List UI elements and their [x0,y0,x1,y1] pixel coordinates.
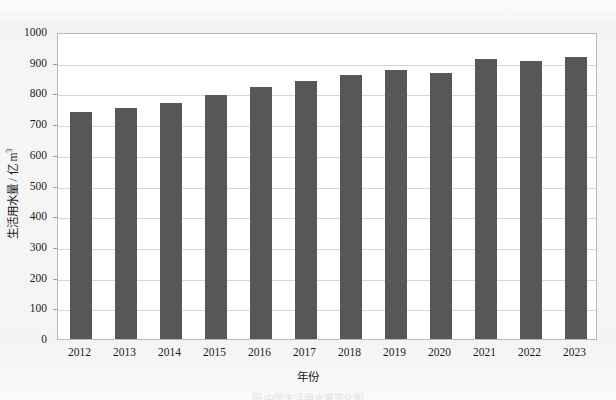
x-tick-label: 2015 [193,346,237,358]
gridline [58,126,596,127]
bar [115,108,137,339]
bar [250,87,272,339]
bar [205,95,227,339]
x-tick-label: 2018 [328,346,372,358]
gridline [58,188,596,189]
x-tick-label: 2016 [238,346,282,358]
y-tick-label: 900 [30,58,47,70]
gridline [58,249,596,250]
bar [160,103,182,339]
gridline [58,310,596,311]
chart-figure: 01002003004005006007008009001000 生活用水量 /… [0,0,616,400]
y-tick-label: 600 [30,150,47,162]
gridline [58,65,596,66]
x-tick-label: 2023 [553,346,597,358]
x-tick-label: 2017 [283,346,327,358]
bar [70,112,92,339]
x-tick-label: 2020 [418,346,462,358]
plot-area [57,33,597,340]
bar [385,70,407,339]
gridline [58,218,596,219]
y-axis-title: 生活用水量 / 亿 m3 [4,99,20,289]
y-tick-label: 100 [30,304,47,316]
figure-caption: 图 中国生活用水量变化图 [0,392,616,400]
y-tick-label: 0 [41,334,47,346]
y-axis-title-exponent: 3 [5,149,14,153]
y-tick-label: 400 [30,211,47,223]
bar [295,81,317,339]
x-tick-label: 2014 [148,346,192,358]
gridline [58,157,596,158]
x-axis-title: 年份 [0,368,616,384]
y-tick-label: 200 [30,273,47,285]
gridline [58,280,596,281]
bar [475,59,497,339]
x-tick-label: 2013 [103,346,147,358]
bar [430,73,452,339]
y-tick-label: 800 [30,89,47,101]
bar [520,61,542,339]
y-tick-label: 300 [30,242,47,254]
y-tick-label: 500 [30,181,47,193]
y-axis-title-text: 生活用水量 / 亿 m [7,153,19,240]
x-tick-label: 2021 [463,346,507,358]
bar [340,75,362,339]
bar [565,57,587,339]
y-tick-label: 700 [30,119,47,131]
x-axis: 2012201320142015201620172018201920202021… [57,341,597,367]
x-tick-label: 2012 [58,346,102,358]
y-tick-label: 1000 [24,27,47,39]
x-tick-label: 2022 [508,346,552,358]
gridline [58,95,596,96]
x-tick-label: 2019 [373,346,417,358]
